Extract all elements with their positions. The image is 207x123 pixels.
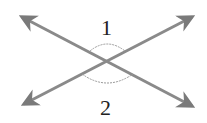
angle-2-label: 2 — [100, 95, 111, 120]
angle-1-arc — [90, 44, 125, 51]
angle-diagram: 1 2 — [0, 0, 207, 123]
angle-1-label: 1 — [101, 15, 112, 40]
angle-2-arc — [82, 74, 133, 83]
